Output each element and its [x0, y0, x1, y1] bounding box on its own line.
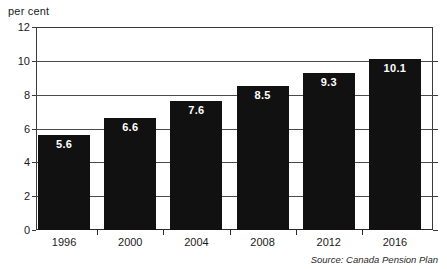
y-axis-tick-label: 2 [24, 191, 30, 202]
y-axis-tick-label: 6 [24, 123, 30, 134]
y-axis-tick-mark-right [433, 129, 438, 130]
y-axis-unit-label: per cent [8, 5, 49, 17]
x-axis-tick-mark [296, 230, 297, 235]
x-axis-tick-label: 1996 [52, 236, 76, 248]
bar: 5.6 [38, 135, 90, 230]
x-axis-tick-mark [97, 230, 98, 235]
y-axis-tick-label: 10 [18, 55, 30, 66]
bar: 7.6 [170, 101, 222, 230]
bar-value-label: 8.5 [237, 89, 289, 101]
y-axis-tick-mark-right [433, 95, 438, 96]
y-axis-tick-mark-right [433, 230, 438, 231]
bar: 8.5 [237, 86, 289, 230]
y-axis-tick-mark [32, 230, 36, 231]
x-axis-tick-label: 2000 [118, 236, 142, 248]
x-axis-tick-mark [362, 230, 363, 235]
bar: 10.1 [369, 59, 421, 230]
y-axis-tick-mark-right [433, 162, 438, 163]
x-axis-tick-mark [163, 230, 164, 235]
y-axis-tick-label: 12 [18, 22, 30, 33]
bar-value-label: 7.6 [170, 104, 222, 116]
bar: 9.3 [303, 73, 355, 230]
bar-value-label: 5.6 [38, 138, 90, 150]
y-axis-tick-label: 4 [24, 157, 30, 168]
bar-value-label: 10.1 [369, 62, 421, 74]
x-axis-tick-label: 2008 [250, 236, 274, 248]
y-axis-tick-label: 0 [24, 225, 30, 236]
x-axis-tick-label: 2004 [184, 236, 208, 248]
plot-area: 024681012 5.66.67.68.59.310.1 [36, 27, 433, 230]
x-axis-tick-mark [230, 230, 231, 235]
bar: 6.6 [104, 118, 156, 230]
x-axis-tick-label: 2012 [317, 236, 341, 248]
y-axis-tick-mark-right [433, 196, 438, 197]
bar-value-label: 6.6 [104, 121, 156, 133]
source-note: Source: Canada Pension Plan [311, 254, 438, 265]
bar-series: 5.66.67.68.59.310.1 [36, 27, 433, 230]
x-axis-tick-label: 2016 [383, 236, 407, 248]
chart-figure: per cent 024681012 5.66.67.68.59.310.1 1… [0, 0, 447, 269]
y-axis-tick-mark-right [433, 61, 438, 62]
y-axis-tick-label: 8 [24, 89, 30, 100]
bar-value-label: 9.3 [303, 76, 355, 88]
